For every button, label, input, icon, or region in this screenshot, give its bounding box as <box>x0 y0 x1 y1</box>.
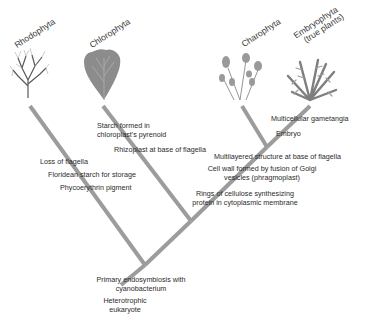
chlorophyta-plant-icon <box>84 49 120 100</box>
trait-origin-line2: eukaryote <box>92 306 158 315</box>
rhodophyta-plant-icon <box>10 48 49 98</box>
trait-phragmoplast: Cell wall formed by fusion of Golgi vesi… <box>192 165 332 182</box>
trait-cellulose-line2: protein in cytoplasmic membrane <box>180 199 310 208</box>
trait-embryo: Embryo <box>276 130 301 139</box>
branch-embryophyta <box>267 106 310 147</box>
trait-multilayered-structure: Multilayered structure at base of flagel… <box>214 153 341 162</box>
trait-chlorophyta: Starch formed in chloroplast's pyrenoid <box>97 122 166 139</box>
trait-phragmoplast-line2: vesicles (phragmoplast) <box>192 174 332 183</box>
trait-endosymbiosis-line2: cyanobacterium <box>84 285 198 294</box>
trait-chloro-line2: chloroplast's pyrenoid <box>97 131 166 140</box>
charophyta-plant-icon <box>219 53 262 100</box>
embryophyta-fern-icon <box>288 60 336 100</box>
branch-green <box>145 221 191 265</box>
trait-heterotrophic-eukaryote: Heterotrophic eukaryote <box>92 297 158 314</box>
trait-primary-endosymbiosis: Primary endosymbiosis with cyanobacteriu… <box>84 276 198 293</box>
trait-floridean-starch: Floridean starch for storage <box>48 171 136 180</box>
trait-loss-of-flagella: Loss of flagella <box>40 158 88 167</box>
trait-cellulose-rings: Rings of cellulose synthesizing protein … <box>180 190 310 207</box>
trait-multicellular-gametangia: Multicellular gametangia <box>271 115 349 124</box>
trait-phycoerythrin: Phycoerythrin pigment <box>60 184 132 193</box>
branch-charophyta <box>242 106 267 147</box>
trait-rhizoplast: Rhizoplast at base of flagella <box>114 146 206 155</box>
